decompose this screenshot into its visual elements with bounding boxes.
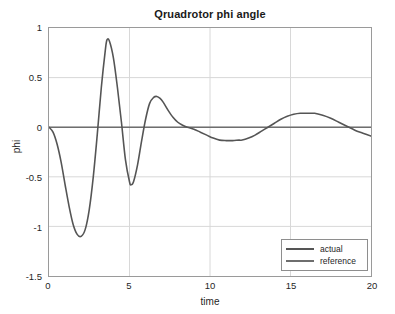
x-axis-label: time [48,296,372,307]
legend-item-label: reference [315,256,356,266]
legend-line-icon [285,256,315,266]
legend-item-label: actual [315,244,343,254]
y-tick-label: 0.5 [29,73,42,83]
y-axis-label: phi [11,127,22,167]
legend-line-icon [285,244,315,254]
y-tick-label: 1 [37,23,42,33]
chart-figure: Qruadrotor phi angle 1 0.5 0 -0.5 -1 -1.… [0,0,395,314]
x-tick-label: 0 [28,281,68,291]
y-tick-label: 0 [37,123,42,133]
x-tick-label: 5 [109,281,149,291]
x-tick-label: 15 [271,281,311,291]
page-title: Qruadrotor phi angle [48,8,372,20]
grid-lines-vertical [130,28,291,276]
legend-item-actual: actual [285,243,363,255]
legend: actual reference [281,239,368,271]
x-tick-label: 20 [352,281,392,291]
y-tick-label: -0.5 [26,173,42,183]
legend-item-reference: reference [285,255,363,267]
y-tick-label: -1 [34,223,42,233]
x-tick-label: 10 [190,281,230,291]
